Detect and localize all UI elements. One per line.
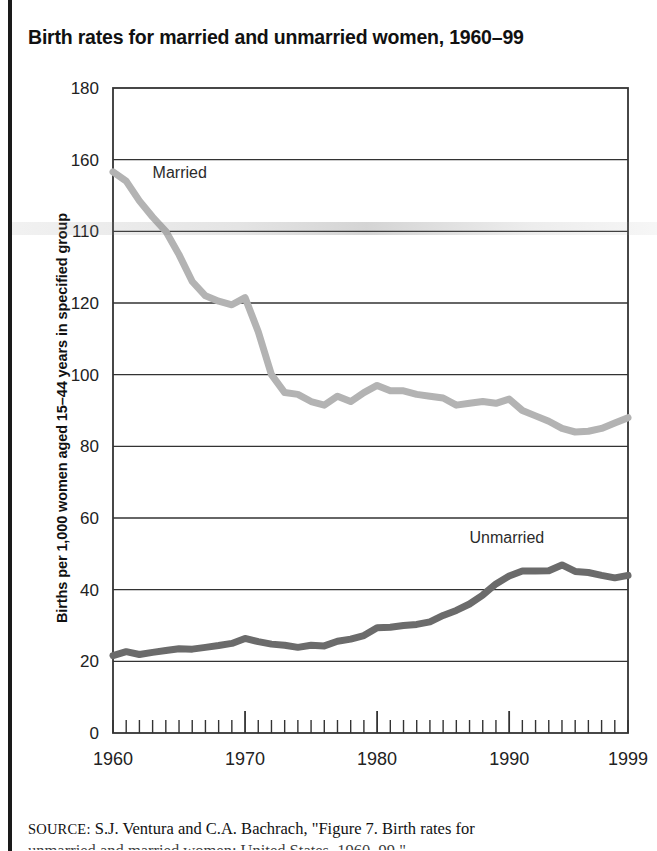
x-axis-tick-labels: 19601970198019901999	[93, 749, 648, 769]
x-tick-label: 1999	[608, 749, 648, 769]
line-chart: 180160110120100806040200 196019701980199…	[0, 0, 657, 851]
x-tick-label: 1960	[93, 749, 133, 769]
y-tick-label: 110	[72, 222, 99, 241]
y-tick-label: 80	[80, 437, 99, 456]
source-text: S.J. Ventura and C.A. Bachrach, "Figure …	[95, 819, 475, 838]
series-label-married: Married	[153, 164, 207, 181]
gridlines	[113, 160, 628, 662]
chart-plot-area: 180160110120100806040200 196019701980199…	[0, 0, 657, 851]
y-tick-label: 120	[71, 294, 99, 313]
x-axis-ticks	[113, 711, 628, 733]
series-line-married	[113, 172, 628, 432]
y-tick-label: 100	[71, 366, 99, 385]
series-labels: MarriedUnmarried	[153, 164, 545, 547]
x-tick-label: 1990	[489, 749, 529, 769]
y-tick-label: 160	[71, 151, 99, 170]
y-tick-label: 60	[80, 509, 99, 528]
data-series	[113, 172, 628, 656]
plot-border	[113, 88, 628, 733]
y-tick-label: 20	[80, 652, 99, 671]
figure-page: Birth rates for married and unmarried wo…	[0, 0, 657, 851]
y-axis-tick-labels: 180160110120100806040200	[71, 79, 99, 743]
series-label-unmarried: Unmarried	[470, 529, 545, 546]
y-tick-label: 180	[71, 79, 99, 98]
source-note: SOURCE: S.J. Ventura and C.A. Bachrach, …	[28, 818, 643, 850]
y-tick-label: 0	[90, 724, 99, 743]
series-line-unmarried	[113, 565, 628, 656]
plot-frame	[113, 88, 628, 733]
y-tick-label: 40	[80, 581, 99, 600]
source-keyword: SOURCE:	[28, 821, 91, 837]
x-tick-label: 1980	[357, 749, 397, 769]
source-text-line2: unmarried and married women: United Stat…	[28, 840, 643, 850]
x-tick-label: 1970	[225, 749, 265, 769]
